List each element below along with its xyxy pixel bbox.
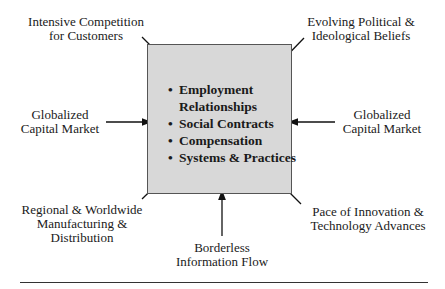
bullet-item: Employment Relationships xyxy=(168,81,296,115)
bullet-text: Employment xyxy=(179,81,296,98)
bullet-item: Social Contracts xyxy=(168,115,296,132)
label-bottom: Borderless Information Flow xyxy=(172,241,272,269)
label-bottom-right: Pace of Innovation & Technology Advances xyxy=(303,205,433,233)
bullet-item: Systems & Practices xyxy=(168,149,296,166)
label-left: Globalized Capital Market xyxy=(15,108,105,136)
label-right: Globalized Capital Market xyxy=(337,108,427,136)
bullet-text: Social Contracts xyxy=(179,115,296,132)
center-bullet-list: Employment Relationships Social Contract… xyxy=(168,81,296,166)
label-bottom-left: Regional & Worldwide Manufacturing & Dis… xyxy=(17,203,147,245)
bullet-text: Systems & Practices xyxy=(179,149,296,166)
bullet-item: Compensation xyxy=(168,132,296,149)
label-top-left: Intensive Competition for Customers xyxy=(21,15,151,43)
label-top-right: Evolving Political & Ideological Beliefs xyxy=(296,15,426,43)
bullet-text: Compensation xyxy=(179,132,296,149)
footer-divider xyxy=(20,282,428,283)
center-box: Employment Relationships Social Contract… xyxy=(147,44,292,194)
bullet-text: Relationships xyxy=(179,98,296,115)
